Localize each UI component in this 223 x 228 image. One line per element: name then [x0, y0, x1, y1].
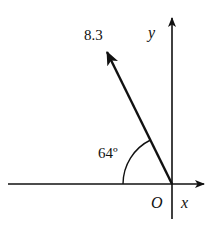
origin-label: O — [151, 194, 163, 211]
vector-diagram: 8.3 64º y x O — [0, 0, 223, 228]
magnitude-label: 8.3 — [84, 27, 103, 43]
x-axis-label: x — [180, 194, 188, 211]
vector-arrow — [107, 52, 172, 184]
y-axis-label: y — [146, 24, 156, 42]
angle-arc — [123, 140, 151, 184]
angle-label: 64º — [98, 145, 118, 161]
